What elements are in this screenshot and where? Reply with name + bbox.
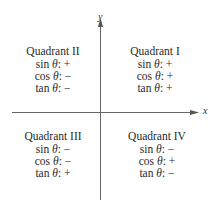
sin-sign-row: sin θ: + [8,58,98,70]
sin-sign: + [64,58,71,70]
cos-sign-row: cos θ: + [110,70,200,82]
sin-sign-row: sin θ: − [112,143,202,155]
tan-sign-row: tan θ: + [8,167,98,179]
quadrant-4: Quadrant IV sin θ: − cos θ: + tan θ: − [112,130,202,179]
cos-sign: − [65,70,72,82]
tan-sign: + [64,167,71,179]
cos-sign: − [65,155,72,167]
y-axis-label: y [98,12,102,22]
cos-sign: + [169,155,176,167]
quadrant-1: Quadrant I sin θ: + cos θ: + tan θ: + [110,45,200,94]
x-axis-arrowhead-icon [190,110,199,115]
cos-sign-row: cos θ: − [8,70,98,82]
quadrant-3: Quadrant III sin θ: − cos θ: − tan θ: + [8,130,98,179]
quadrant-title: Quadrant III [8,130,98,142]
tan-sign-row: tan θ: − [8,82,98,94]
tan-sign: − [64,82,71,94]
tan-sign-row: tan θ: + [110,82,200,94]
sin-sign: + [166,58,173,70]
quadrant-title: Quadrant II [8,45,98,57]
tan-sign: − [168,167,175,179]
cos-sign: + [167,70,174,82]
cos-sign-row: cos θ: + [112,155,202,167]
tan-sign: + [166,82,173,94]
sin-sign: − [168,143,175,155]
quadrant-title: Quadrant IV [112,130,202,142]
sin-sign-row: sin θ: − [8,143,98,155]
sin-sign: − [64,143,71,155]
sin-sign-row: sin θ: + [110,58,200,70]
x-axis-label: x [203,106,207,116]
tan-sign-row: tan θ: − [112,167,202,179]
quadrant-2: Quadrant II sin θ: + cos θ: − tan θ: − [8,45,98,94]
cos-sign-row: cos θ: − [8,155,98,167]
quadrant-title: Quadrant I [110,45,200,57]
